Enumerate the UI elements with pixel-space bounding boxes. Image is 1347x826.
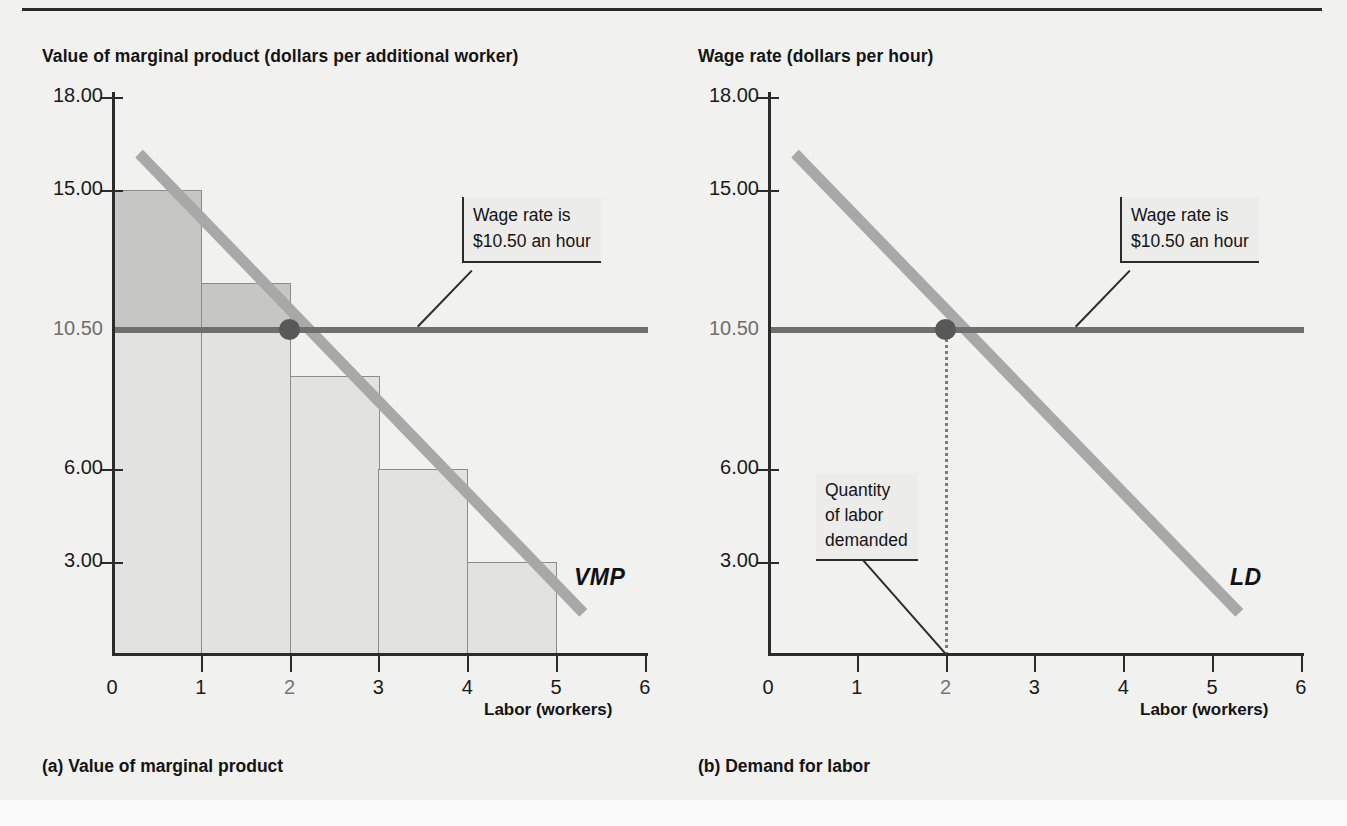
y-label-15: 15.00 (53, 177, 103, 200)
x-label-5: 5 (536, 676, 576, 699)
x-tick-3 (1034, 654, 1036, 672)
panel-a-callout-leader (417, 270, 472, 327)
vmp-curve-label: VMP (574, 564, 625, 591)
x-label-1: 1 (837, 676, 877, 699)
y-tick-6 (101, 469, 123, 471)
x-tick-6 (645, 654, 647, 672)
y-label-10-50: 10.50 (53, 317, 103, 340)
quantity-demanded-leader (862, 559, 945, 653)
x-label-3: 3 (358, 676, 398, 699)
y-tick-6 (757, 469, 779, 471)
panel-b: Wage rate (dollars per hour) 18.00 15.00… (664, 0, 1324, 826)
x-tick-4 (1123, 654, 1125, 672)
x-label-0: 0 (748, 676, 788, 699)
panel-a-x-axis-title: Labor (workers) (484, 700, 612, 720)
intersection-point (279, 319, 300, 340)
y-tick-18 (757, 97, 779, 99)
x-tick-2 (946, 654, 948, 672)
panel-b-wage-callout-leader (1075, 270, 1130, 327)
x-tick-6 (1301, 654, 1303, 672)
y-tick-15 (101, 190, 123, 192)
panel-a: Value of marginal product (dollars per a… (8, 0, 668, 826)
ld-curve-label: LD (1230, 564, 1262, 591)
x-tick-1 (201, 654, 203, 672)
wage-rate-line (112, 327, 648, 333)
y-label-18: 18.00 (53, 84, 103, 107)
y-label-10-50: 10.50 (709, 317, 759, 340)
x-label-2: 2 (270, 676, 310, 699)
panel-a-plot-area: 18.00 15.00 10.50 6.00 3.00 0 1 2 3 4 5 … (112, 92, 657, 657)
quantity-demanded-line3: demanded (825, 528, 908, 553)
quantity-demanded-dotted-line (945, 332, 948, 655)
quantity-demanded-line2: of labor (825, 503, 908, 528)
y-label-6: 6.00 (720, 456, 759, 479)
x-label-2: 2 (926, 676, 966, 699)
y-label-15: 15.00 (709, 177, 759, 200)
y-tick-3 (101, 562, 123, 564)
panel-a-caption: (a) Value of marginal product (42, 756, 283, 777)
panel-a-wage-callout-line2: $10.50 an hour (473, 228, 591, 254)
x-tick-1 (857, 654, 859, 672)
panel-a-wage-callout-line1: Wage rate is (473, 202, 591, 228)
panel-a-y-axis (112, 92, 115, 655)
y-tick-3 (757, 562, 779, 564)
panel-b-x-axis-title: Labor (workers) (1140, 700, 1268, 720)
panel-b-wage-callout: Wage rate is $10.50 an hour (1120, 197, 1259, 263)
x-tick-4 (467, 654, 469, 672)
y-label-18: 18.00 (709, 84, 759, 107)
panel-b-y-axis (768, 92, 771, 655)
x-tick-3 (378, 654, 380, 672)
bar-worker-4 (378, 469, 468, 655)
y-tick-15 (757, 190, 779, 192)
y-tick-18 (101, 97, 123, 99)
panel-a-y-axis-title: Value of marginal product (dollars per a… (42, 46, 518, 67)
x-label-6: 6 (625, 676, 665, 699)
bar-worker-3 (290, 376, 380, 655)
panel-b-wage-callout-line2: $10.50 an hour (1131, 228, 1249, 254)
quantity-demanded-line1: Quantity (825, 478, 908, 503)
y-label-3: 3.00 (720, 549, 759, 572)
intersection-point (935, 319, 956, 340)
panel-b-y-axis-title: Wage rate (dollars per hour) (698, 46, 934, 67)
panel-a-wage-callout: Wage rate is $10.50 an hour (462, 197, 601, 263)
y-label-6: 6.00 (64, 456, 103, 479)
y-label-3: 3.00 (64, 549, 103, 572)
panel-b-caption: (b) Demand for labor (698, 756, 870, 777)
panel-b-plot-area: 18.00 15.00 10.50 6.00 3.00 0 1 2 3 4 5 … (768, 92, 1313, 657)
quantity-demanded-callout: Quantity of labor demanded (816, 473, 918, 561)
figure-container: Value of marginal product (dollars per a… (0, 0, 1347, 826)
x-label-4: 4 (447, 676, 487, 699)
bar-worker-2 (201, 283, 291, 655)
wage-rate-line (768, 327, 1304, 333)
x-label-4: 4 (1103, 676, 1143, 699)
x-label-1: 1 (181, 676, 221, 699)
x-label-3: 3 (1014, 676, 1054, 699)
x-label-5: 5 (1192, 676, 1232, 699)
x-tick-5 (1212, 654, 1214, 672)
x-tick-5 (556, 654, 558, 672)
panel-b-wage-callout-line1: Wage rate is (1131, 202, 1249, 228)
x-label-6: 6 (1281, 676, 1321, 699)
x-label-0: 0 (92, 676, 132, 699)
x-tick-2 (290, 654, 292, 672)
